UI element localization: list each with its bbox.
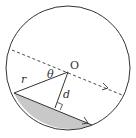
circle-outline [6,6,130,130]
dashed-line-arrow-icon [102,83,108,90]
right-angle-marker [58,103,63,111]
center-label-o: O [70,59,79,72]
distance-label-d: d [63,88,70,101]
shaded-segment [14,93,92,129]
radius-label-r: r [21,73,27,86]
angle-label-theta: θ [47,68,54,81]
circle-segment-diagram: O r θ d [0,0,136,138]
